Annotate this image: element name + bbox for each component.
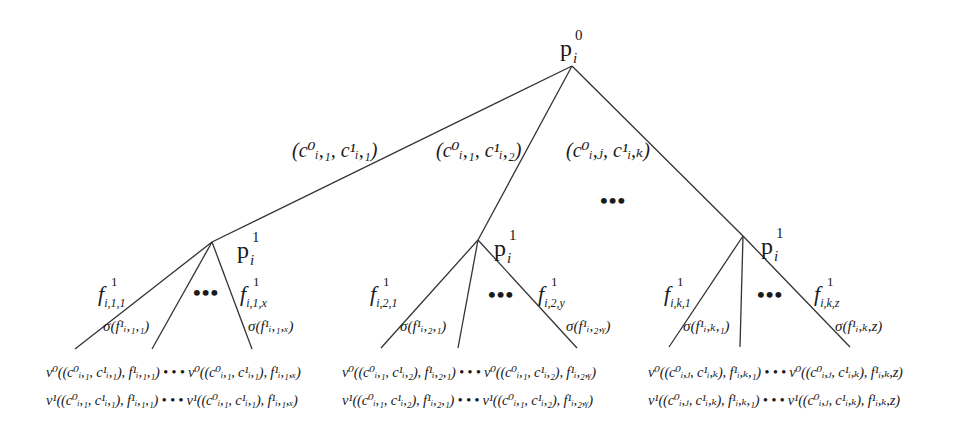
subtree-2-leaf-row-v0: ν⁰((c⁰ᵢ,₁, c¹ᵢ,₂), f¹ᵢ,₂,₁) • • • ν⁰((c⁰…: [342, 365, 596, 380]
subtree-1-node-label: pi1: [237, 238, 254, 262]
subtree-2-left-edge-label: f1i,2,1: [370, 283, 397, 305]
subtree-3-left-sigma: σ(f¹ᵢ,ₖ,₁): [683, 319, 730, 334]
edge-right-to-leaf-2: [740, 236, 743, 347]
subtree-3-node-label: pi1: [761, 234, 778, 258]
subtree-3-right-sigma: σ(f¹ᵢ,ₖ,z): [835, 319, 882, 334]
subtree-3-leaf-row-v1: ν¹((c⁰ᵢ,ⱼ, c¹ᵢ,ₖ), f¹ᵢ,ₖ,₁) • • • ν¹((c⁰…: [648, 393, 900, 408]
subtree-1-left-edge-label: f1i,1,1: [98, 283, 125, 305]
subtree-2-leaf-row-v1: ν¹((c⁰ᵢ,₁, c¹ᵢ,₂), f¹ᵢ,₂,₁) • • • ν¹((c⁰…: [342, 393, 593, 408]
subtree-1-leaf-row-v1: ν¹((c⁰ᵢ,₁, c¹ᵢ,₁), f¹ᵢ,₁,₁) • • • ν¹((c⁰…: [46, 393, 298, 408]
subtree-1-left-sigma: σ(f¹ᵢ,₁,₁): [103, 319, 149, 334]
subtree-3-right-edge-label: f1i,k,z: [814, 283, 839, 305]
top-edge-label-3: (c⁰ᵢ,ⱼ, c¹ᵢ,ₖ): [566, 140, 650, 160]
subtree-3-ellipsis: •••: [757, 284, 783, 306]
subtree-3-leaf-row-v0: ν⁰((c⁰ᵢ,ⱼ, c¹ᵢ,ₖ), f¹ᵢ,ₖ,₁) • • • ν⁰((c⁰…: [648, 365, 903, 380]
subtree-1-leaf-row-v0: ν⁰((c⁰ᵢ,₁, c¹ᵢ,₁), f¹ᵢ,₁,₁) • • • ν⁰((c⁰…: [46, 365, 301, 380]
subtree-1-ellipsis: •••: [193, 282, 219, 304]
top-edge-label-1: (c⁰ᵢ,₁, c¹ᵢ,₁): [292, 140, 377, 160]
subtree-2-right-edge-label: f1i,2,y: [538, 283, 565, 305]
subtree-2-node-label: pi1: [494, 236, 511, 260]
subtree-2-ellipsis: •••: [488, 284, 514, 306]
edge-middle-to-leaf-2: [458, 240, 478, 348]
top-ellipsis: •••: [600, 190, 626, 212]
subtree-1-right-sigma: σ(f¹ᵢ,₁,ₓ): [248, 319, 293, 334]
top-edge-label-2: (c⁰ᵢ,₁, c¹ᵢ,₂): [436, 140, 521, 160]
subtree-2-right-sigma: σ(f¹ᵢ,₂,ᵧ): [566, 319, 611, 334]
subtree-1-right-edge-label: f1i,1,x: [240, 283, 267, 305]
root-node-label: pi0: [560, 36, 577, 60]
subtree-2-left-sigma: σ(f¹ᵢ,₂,₁): [400, 319, 446, 334]
subtree-3-left-edge-label: f1i,k,1: [664, 283, 691, 305]
